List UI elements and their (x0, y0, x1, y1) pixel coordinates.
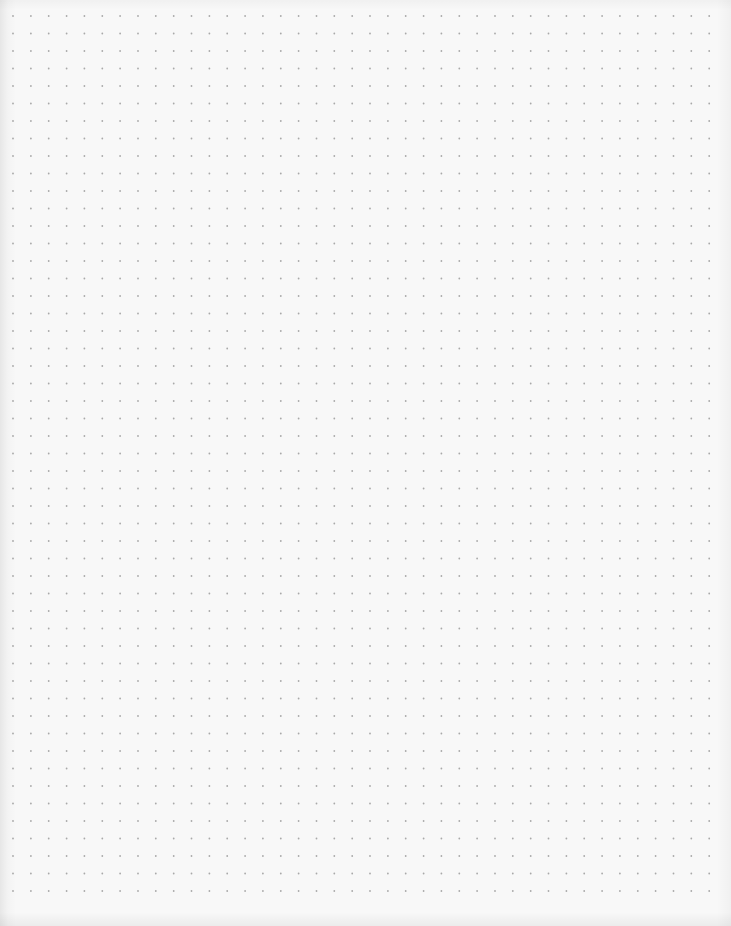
dot-grid-pattern (0, 0, 731, 926)
dot-grid-paper: Blank dot-grid paper page (0, 0, 731, 926)
